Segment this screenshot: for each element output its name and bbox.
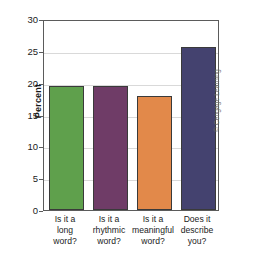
bar-chart-figure: Percent 051015202530 Is it a long word?I…	[0, 0, 253, 278]
plot-area	[43, 20, 219, 211]
y-axis-tick-label: 20	[14, 80, 38, 88]
bar	[137, 96, 172, 210]
x-axis-category-label: Does it describe you?	[170, 214, 224, 248]
y-axis-title: Percent	[33, 61, 43, 141]
y-axis-tick-label: 15	[14, 112, 38, 120]
y-axis-tick-label: 10	[14, 143, 38, 151]
bar	[49, 86, 84, 210]
y-axis-tick-mark	[39, 211, 43, 212]
y-axis-tick-label: 25	[14, 48, 38, 56]
y-axis-tick-label: 0	[14, 207, 38, 215]
y-axis-tick-label: 5	[14, 175, 38, 183]
bar	[93, 86, 128, 210]
y-axis-tick-label: 30	[14, 16, 38, 24]
bar	[181, 47, 216, 210]
copyright-credit: © Cengage Learning	[213, 42, 220, 132]
